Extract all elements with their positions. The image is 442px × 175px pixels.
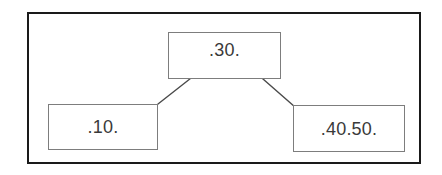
node-box-right[interactable]: .40.50. bbox=[293, 105, 405, 152]
node-label-top: .30. bbox=[209, 41, 240, 59]
diagram-canvas: .30. .10. .40.50. bbox=[0, 0, 442, 175]
node-label-right: .40.50. bbox=[321, 120, 377, 138]
node-box-left[interactable]: .10. bbox=[48, 104, 158, 150]
node-box-top[interactable]: .30. bbox=[168, 32, 281, 79]
node-label-left: .10. bbox=[88, 118, 119, 136]
